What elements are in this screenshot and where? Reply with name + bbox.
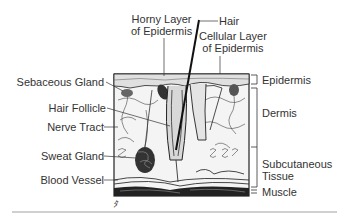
- label-dermis: Dermis: [262, 107, 297, 119]
- label-horny-layer-line2: of Epidermis: [131, 25, 192, 37]
- label-cellular-layer-line1: Cellular Layer: [199, 30, 267, 42]
- artist-signature: ﾀ: [113, 198, 118, 210]
- label-cellular-layer: Cellular Layer of Epidermis: [199, 30, 267, 54]
- label-blood-vessel: Blood Vessel: [40, 174, 104, 186]
- label-epidermis: Epidermis: [262, 74, 311, 86]
- layer-brackets: [251, 75, 257, 193]
- label-horny-layer: Horny Layer of Epidermis: [131, 13, 192, 37]
- label-subcutaneous-line1: Subcutaneous: [262, 158, 332, 170]
- label-horny-layer-line1: Horny Layer: [131, 13, 192, 25]
- label-nerve-tract: Nerve Tract: [47, 121, 104, 133]
- label-hair: Hair: [219, 15, 239, 27]
- label-subcutaneous-line2: Tissue: [262, 170, 332, 182]
- label-muscle: Muscle: [262, 186, 297, 198]
- label-cellular-layer-line2: of Epidermis: [199, 42, 267, 54]
- label-subcutaneous-tissue: Subcutaneous Tissue: [262, 158, 332, 182]
- label-hair-follicle: Hair Follicle: [49, 102, 106, 114]
- label-sweat-gland: Sweat Gland: [41, 150, 104, 162]
- label-sebaceous-gland: Sebaceous Gland: [17, 76, 104, 88]
